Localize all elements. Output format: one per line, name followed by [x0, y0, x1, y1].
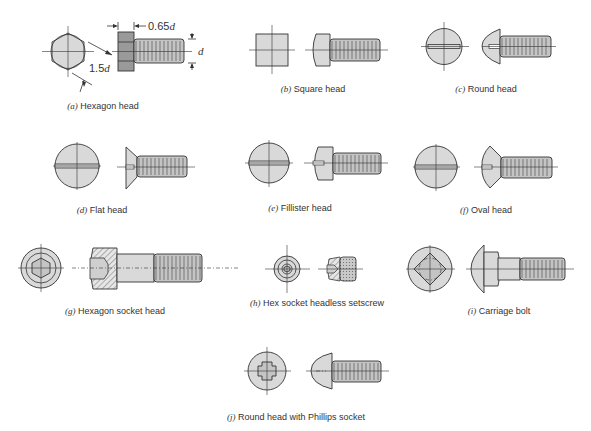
caption-g: (g) Hexagon socket head: [65, 306, 165, 316]
caption-e: (e) Fillister head: [268, 203, 332, 213]
panel-flat-head: (d) Flat head: [53, 142, 195, 215]
caption-a: (a) Hexagon head: [67, 101, 139, 111]
caption-f: (f) Oval head: [460, 205, 512, 215]
caption-j: (j) Round head with Phillips socket: [227, 412, 366, 422]
caption-h: (h) Hex socket headless setscrew: [250, 298, 385, 308]
panel-hexagon-socket-head: (g) Hexagon socket head: [18, 244, 238, 316]
panel-hexagon-head: 0.65d d 1.5d (a) Hexagon head: [42, 20, 204, 111]
hexagon-head-side-view: [112, 32, 192, 71]
diameter-dim: d: [198, 45, 204, 57]
caption-c: (c) Round head: [455, 84, 517, 94]
screw-heads-diagram: 0.65d d 1.5d (a) Hexagon head (b) Square…: [0, 0, 591, 431]
caption-b: (b) Square head: [281, 84, 346, 94]
caption-i: (i) Carriage bolt: [468, 306, 531, 316]
panel-oval-head: (f) Oval head: [413, 144, 558, 215]
panel-square-head: (b) Square head: [249, 25, 388, 94]
panel-hex-socket-setscrew: (h) Hex socket headless setscrew: [250, 245, 385, 308]
head-height-dim: 0.65d: [148, 20, 175, 32]
panel-round-head: (c) Round head: [421, 22, 556, 94]
hexagon-head-end-view: [42, 26, 94, 77]
panel-carriage-bolt: (i) Carriage bolt: [406, 245, 574, 316]
panel-phillips-round-head: (j) Round head with Phillips socket: [227, 347, 389, 422]
caption-d: (d) Flat head: [77, 205, 128, 215]
panel-fillister-head: (e) Fillister head: [245, 140, 388, 213]
across-flats-dim: 1.5d: [89, 62, 110, 74]
